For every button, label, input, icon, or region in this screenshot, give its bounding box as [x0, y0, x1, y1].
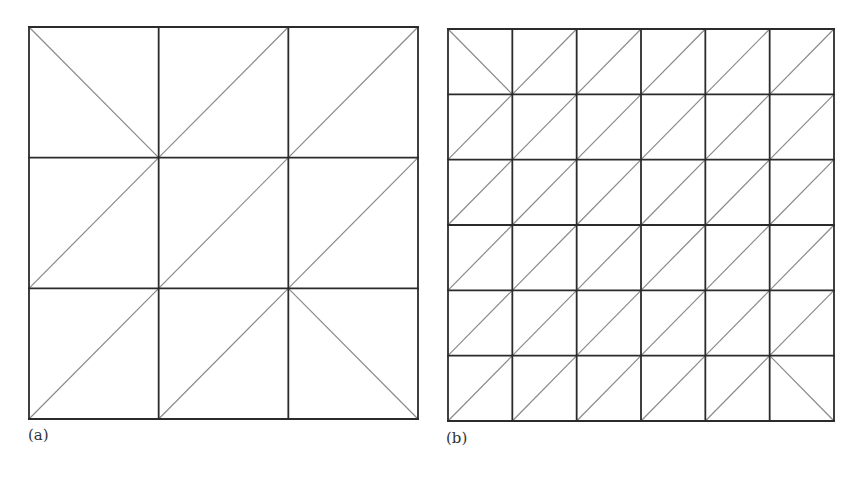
- mesh-panel-b: [448, 29, 834, 421]
- diagonal-edge: [770, 29, 834, 94]
- diagonal-edge: [577, 160, 641, 225]
- diagonal-edge: [577, 29, 641, 94]
- diagonal-edge: [705, 225, 769, 290]
- diagonal-edge: [512, 356, 576, 421]
- diagonal-edge: [448, 290, 512, 355]
- diagonal-edge: [29, 288, 159, 419]
- diagonal-edge: [512, 290, 576, 355]
- diagonal-edge: [448, 94, 512, 159]
- panel-label-b: (b): [446, 429, 467, 447]
- diagonal-edge: [288, 27, 418, 158]
- diagonal-edge: [770, 290, 834, 355]
- diagonal-edge: [29, 158, 159, 289]
- diagonal-edge: [577, 94, 641, 159]
- diagonal-edge: [512, 94, 576, 159]
- panel-label-a: (a): [28, 426, 49, 444]
- diagonal-edge: [577, 356, 641, 421]
- diagonal-edge: [288, 158, 418, 289]
- diagonal-edge: [159, 158, 289, 289]
- diagonal-edge: [641, 290, 705, 355]
- diagonal-edge: [512, 29, 576, 94]
- diagonal-edge: [770, 94, 834, 159]
- diagonal-edge: [448, 29, 512, 94]
- mesh-panel-a: [29, 27, 418, 419]
- mesh-figure: [0, 0, 861, 478]
- diagonal-edge: [288, 288, 418, 419]
- diagonal-edge: [770, 356, 834, 421]
- diagonal-edge: [641, 225, 705, 290]
- diagonal-edge: [159, 27, 289, 158]
- diagonal-edge: [29, 27, 159, 158]
- diagonal-edge: [512, 225, 576, 290]
- diagonal-edge: [448, 356, 512, 421]
- diagonal-edge: [159, 288, 289, 419]
- diagonal-edge: [705, 290, 769, 355]
- diagonal-edge: [705, 94, 769, 159]
- diagonal-edge: [641, 160, 705, 225]
- diagonal-edge: [705, 356, 769, 421]
- diagonal-edge: [577, 225, 641, 290]
- diagonal-edge: [705, 29, 769, 94]
- diagonal-edge: [705, 160, 769, 225]
- diagonal-edge: [641, 94, 705, 159]
- diagonal-edge: [770, 160, 834, 225]
- diagonal-edge: [770, 225, 834, 290]
- diagonal-edge: [641, 29, 705, 94]
- diagonal-edge: [577, 290, 641, 355]
- diagonal-edge: [512, 160, 576, 225]
- diagonal-edge: [641, 356, 705, 421]
- diagonal-edge: [448, 225, 512, 290]
- diagonal-edge: [448, 160, 512, 225]
